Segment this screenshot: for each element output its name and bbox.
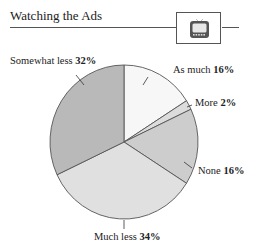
- label-name: More: [195, 97, 218, 108]
- label-name: None: [198, 165, 221, 176]
- label-much-less: Much less 34%: [94, 231, 161, 242]
- label-value: 16%: [223, 165, 244, 176]
- pie-chart: [0, 0, 257, 249]
- label-value: 34%: [140, 231, 161, 242]
- label-value: 2%: [220, 97, 236, 108]
- label-name: Somewhat less: [10, 55, 73, 66]
- label-none: None 16%: [198, 165, 244, 176]
- label-name: As much: [173, 64, 211, 75]
- label-value: 16%: [213, 64, 234, 75]
- label-name: Much less: [94, 231, 137, 242]
- label-more: More 2%: [195, 97, 236, 108]
- label-value: 32%: [75, 55, 96, 66]
- label-as-much: As much 16%: [173, 64, 234, 75]
- label-somewhat-less: Somewhat less 32%: [10, 55, 96, 66]
